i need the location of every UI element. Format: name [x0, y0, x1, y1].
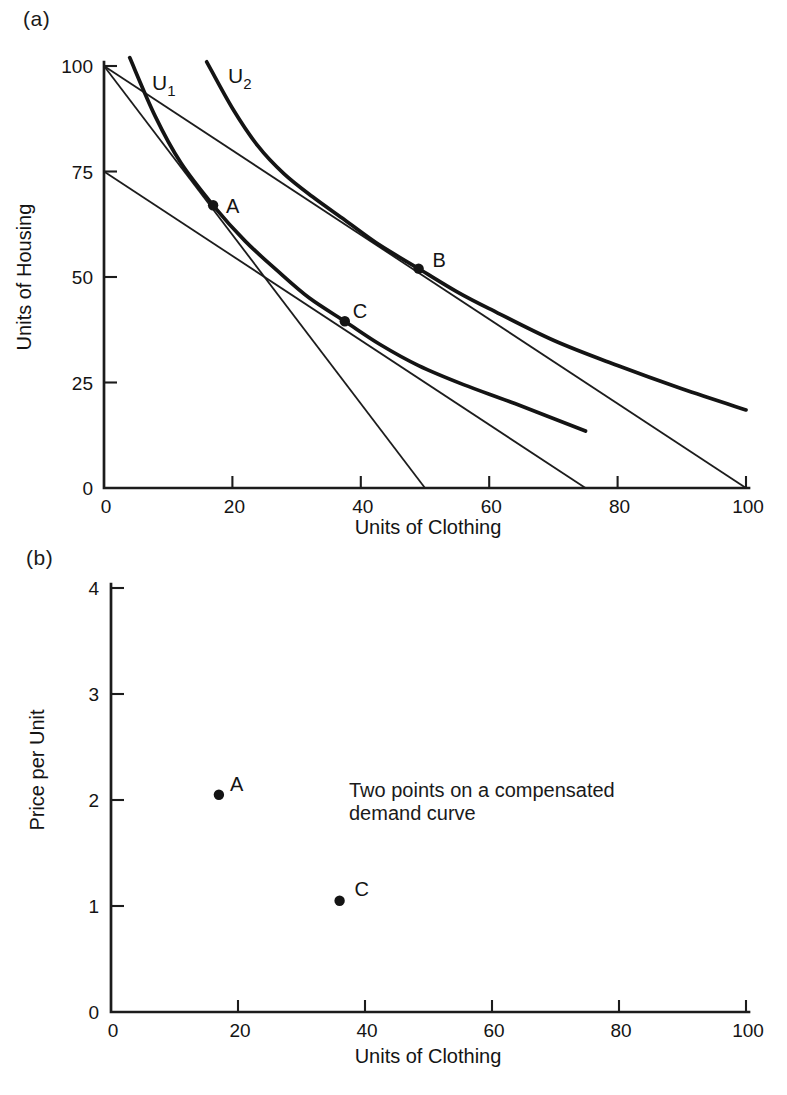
point-dot-B-a	[413, 263, 423, 273]
point-label-A-a: A	[226, 195, 240, 217]
point-dot-A-a	[208, 200, 218, 210]
panel-a: 0255075100020406080100Units of ClothingU…	[13, 56, 764, 538]
y-tick-label: 2	[88, 790, 99, 811]
y-tick-label: 25	[72, 373, 93, 394]
point-label-C-a: C	[353, 300, 367, 322]
x-tick-label: 60	[481, 496, 502, 517]
y-tick-label: 4	[88, 578, 99, 599]
y-axis-title-a: Units of Housing	[13, 204, 35, 351]
point-dot-A-b	[214, 790, 224, 800]
point-dot-C-a	[340, 316, 350, 326]
curve-label-U2: U2	[228, 64, 252, 92]
figure-page: { "figure": { "panel_a_tag": "(a)", "pan…	[0, 0, 787, 1095]
point-dot-C-b	[334, 896, 344, 906]
x-tick-label: 20	[224, 496, 245, 517]
indifference-curve-U2	[207, 62, 746, 410]
x-tick-label: 0	[101, 496, 112, 517]
y-tick-label: 0	[88, 1002, 99, 1023]
y-tick-label: 0	[82, 478, 93, 499]
y-tick-label: 50	[72, 267, 93, 288]
point-label-B-a: B	[433, 249, 446, 271]
x-axis-title-b: Units of Clothing	[355, 1045, 502, 1067]
x-tick-label: 20	[229, 1020, 250, 1041]
y-tick-label: 75	[72, 162, 93, 183]
point-label-A-b: A	[230, 773, 244, 795]
compensated-demand-note: Two points on a compensated demand curve	[349, 779, 634, 825]
x-tick-label: 100	[732, 1020, 764, 1041]
indifference-curve-U1	[130, 58, 586, 431]
x-tick-label: 80	[609, 496, 630, 517]
y-axis-title-b: Price per Unit	[26, 709, 48, 831]
x-tick-label: 40	[352, 496, 373, 517]
point-label-C-b: C	[355, 878, 369, 900]
lower-price-budget-line	[104, 66, 746, 488]
x-tick-label: 80	[610, 1020, 631, 1041]
x-tick-label: 100	[732, 496, 764, 517]
curve-label-U1: U1	[152, 71, 176, 99]
x-tick-label: 40	[356, 1020, 377, 1041]
y-tick-label: 3	[88, 684, 99, 705]
x-axis-title-a: Units of Clothing	[355, 516, 502, 538]
y-tick-label: 1	[88, 896, 99, 917]
figure-chart: 0255075100020406080100Units of ClothingU…	[0, 0, 787, 1095]
x-tick-label: 60	[483, 1020, 504, 1041]
y-tick-label: 100	[61, 56, 93, 77]
x-tick-label: 0	[108, 1020, 119, 1041]
